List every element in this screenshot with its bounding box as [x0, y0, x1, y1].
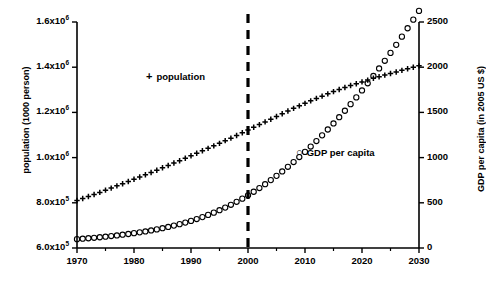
- data-point: [109, 233, 114, 238]
- data-point: [148, 170, 153, 175]
- data-point: [86, 236, 91, 241]
- data-point: [388, 71, 393, 76]
- data-point: [257, 122, 262, 127]
- y-axis-left-tick-label-3: 1.2x106: [0, 105, 69, 116]
- data-point: [291, 106, 296, 111]
- x-axis-tick-label-4: 2010: [280, 255, 330, 266]
- data-point: [131, 231, 136, 236]
- data-point: [160, 165, 165, 170]
- x-axis-tick-label-0: 1970: [52, 255, 102, 266]
- data-point: [274, 114, 279, 119]
- data-point: [274, 173, 279, 178]
- data-point: [337, 87, 342, 92]
- y-axis-right-tick-label-4: 2000: [427, 60, 448, 71]
- data-point: [262, 119, 267, 124]
- y-axis-left-tick-label-2: 1.0x106: [0, 151, 69, 162]
- data-point: [359, 79, 364, 84]
- data-point: [268, 178, 273, 183]
- plus-marker-icon: +: [146, 71, 152, 82]
- legend-label-population: population: [156, 71, 205, 82]
- data-point: [388, 50, 393, 55]
- data-point: [302, 101, 307, 106]
- y-axis-left-tick-label-4: 1.4x106: [0, 60, 69, 71]
- data-point: [137, 230, 142, 235]
- x-axis-tick-label-3: 2000: [223, 255, 273, 266]
- data-point: [223, 205, 228, 210]
- data-point: [154, 227, 159, 232]
- data-point: [405, 66, 410, 71]
- data-point: [205, 146, 210, 151]
- data-point: [354, 81, 359, 86]
- data-point: [319, 93, 324, 98]
- x-axis-tick-label-2: 1990: [166, 255, 216, 266]
- data-point: [223, 138, 228, 143]
- data-point: [320, 133, 325, 138]
- y-axis-right-tick-label-2: 1000: [427, 151, 448, 162]
- data-point: [325, 91, 330, 96]
- data-point: [394, 42, 399, 47]
- data-point: [251, 189, 256, 194]
- data-point: [268, 116, 273, 121]
- data-point: [354, 95, 359, 100]
- y-axis-right-tick-label-3: 1500: [427, 105, 448, 116]
- data-point: [359, 88, 364, 93]
- data-point: [177, 158, 182, 163]
- data-point: [280, 111, 285, 116]
- data-point: [251, 125, 256, 130]
- data-point: [314, 96, 319, 101]
- data-point: [97, 190, 102, 195]
- data-point: [314, 138, 319, 143]
- data-point: [228, 202, 233, 207]
- data-point: [171, 223, 176, 228]
- data-point: [394, 69, 399, 74]
- data-point: [217, 141, 222, 146]
- data-point: [331, 121, 336, 126]
- data-point: [348, 83, 353, 88]
- y-axis-right-tick-label-1: 500: [427, 196, 443, 207]
- data-point: [405, 26, 410, 31]
- data-point: [166, 163, 171, 168]
- data-point: [377, 66, 382, 71]
- data-point: [91, 192, 96, 197]
- data-point: [120, 181, 125, 186]
- data-point: [171, 160, 176, 165]
- data-point: [188, 218, 193, 223]
- data-point: [183, 156, 188, 161]
- data-point: [217, 208, 222, 213]
- x-axis-tick-label-5: 2020: [337, 255, 387, 266]
- data-point: [342, 108, 347, 113]
- data-point: [149, 228, 154, 233]
- data-point: [126, 231, 131, 236]
- data-point: [131, 177, 136, 182]
- data-point: [308, 98, 313, 103]
- legend-label-gdp-per-capita: GDP per capita: [307, 147, 375, 158]
- y-axis-right-tick-label-0: 0: [427, 241, 432, 252]
- data-point: [348, 102, 353, 107]
- data-point: [206, 212, 211, 217]
- data-point: [160, 226, 165, 231]
- data-point: [166, 224, 171, 229]
- data-point: [194, 151, 199, 156]
- data-point: [137, 174, 142, 179]
- data-point: [188, 153, 193, 158]
- data-point: [240, 196, 245, 201]
- data-point: [80, 236, 85, 241]
- data-point: [120, 232, 125, 237]
- data-point: [211, 210, 216, 215]
- y-axis-right-title: GDP per capita (in 2005 US $): [476, 39, 486, 219]
- data-point: [399, 34, 404, 39]
- data-point: [200, 214, 205, 219]
- data-point: [126, 179, 131, 184]
- y-axis-left-tick-label-5: 1.6x106: [0, 15, 69, 26]
- data-point: [280, 169, 285, 174]
- data-point: [399, 68, 404, 73]
- data-point: [376, 74, 381, 79]
- data-point: [411, 17, 416, 22]
- data-point: [114, 233, 119, 238]
- data-point: [92, 235, 97, 240]
- data-point: [97, 235, 102, 240]
- x-axis-tick-label-6: 2030: [394, 255, 444, 266]
- data-point: [86, 194, 91, 199]
